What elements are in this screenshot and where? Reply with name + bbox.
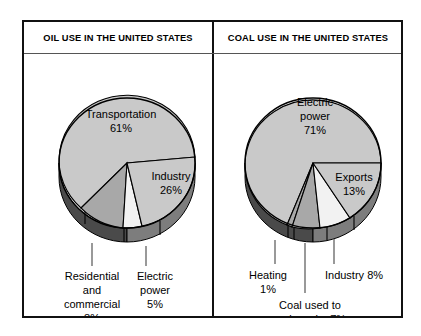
callout-coke-l2: make coke 7% (274, 313, 346, 316)
callout-industry-l1: Industry 8% (325, 269, 383, 281)
pie-oil-svg: Transportation 61% Industry 26% Resident… (24, 53, 212, 316)
pie-chart-oil: Transportation 61% Industry 26% Resident… (24, 53, 212, 316)
pie-coal-leaders (275, 239, 334, 293)
callout-elec-l1: Electric (137, 270, 174, 282)
pie-chart-coal: Electric power 71% Exports 13% Heating 1… (214, 53, 402, 316)
pie-coal-svg: Electric power 71% Exports 13% Heating 1… (214, 53, 402, 316)
figure-root: OIL USE IN THE UNITED STATES (0, 0, 421, 336)
callout-heating-l1: Heating (249, 269, 287, 281)
callout-heating-l2: 1% (260, 283, 276, 295)
callout-elec-l3: 5% (147, 298, 163, 310)
label-electric-power-l3: 71% (304, 124, 326, 136)
panel-coal: COAL USE IN THE UNITED STATES (214, 22, 402, 316)
callout-res-l1: Residential (65, 270, 119, 282)
label-electric-power-l2: power (300, 110, 330, 122)
label-exports-value: 13% (343, 185, 365, 197)
panel-oil: OIL USE IN THE UNITED STATES (24, 22, 212, 316)
callout-industry: Industry 8% (325, 269, 383, 281)
callout-res-l4: 8% (84, 312, 100, 316)
label-exports-name: Exports (335, 171, 373, 183)
callout-res-l3: commercial (64, 298, 120, 310)
label-industry-name: Industry (151, 170, 191, 182)
callout-residential-commercial: Residential and commercial 8% (64, 270, 120, 316)
pie-oil-leaders (92, 243, 146, 266)
label-industry-value: 26% (160, 184, 182, 196)
label-transportation-name: Transportation (86, 108, 157, 120)
label-electric-power-l1: Electric (297, 96, 334, 108)
callout-coal-for-coke: Coal used to make coke 7% (274, 299, 346, 316)
callout-res-l2: and (83, 284, 101, 296)
panel-title-coal: COAL USE IN THE UNITED STATES (214, 22, 402, 53)
panel-title-oil: OIL USE IN THE UNITED STATES (24, 22, 212, 53)
label-transportation-value: 61% (110, 122, 132, 134)
callout-electric-power: Electric power 5% (137, 270, 174, 310)
callout-coke-l1: Coal used to (279, 299, 341, 311)
callout-heating: Heating 1% (249, 269, 287, 295)
callout-elec-l2: power (140, 284, 170, 296)
